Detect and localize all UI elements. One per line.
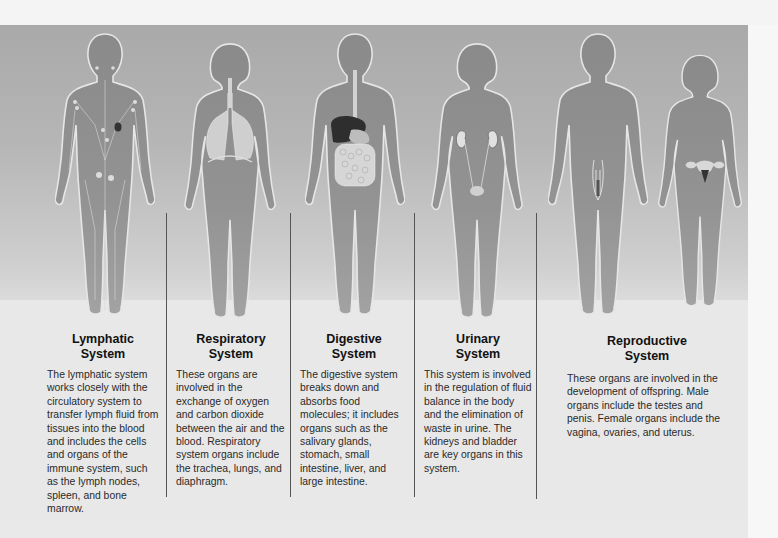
section-description: These organs are involved in the exchang…: [176, 368, 286, 489]
column-divider: [536, 213, 537, 499]
lymphatic-system-section: LymphaticSystem The lymphatic system wor…: [47, 332, 159, 515]
urinary-system-section: UrinarySystem This system is involved in…: [424, 332, 532, 475]
section-title: RespiratorySystem: [176, 332, 286, 362]
digestive-system-section: DigestiveSystem The digestive system bre…: [300, 332, 408, 489]
section-title: UrinarySystem: [424, 332, 532, 362]
section-title: LymphaticSystem: [47, 332, 159, 362]
reproductive-female-body-figure: [655, 38, 745, 323]
section-description: The lymphatic system works closely with …: [47, 368, 159, 515]
column-divider: [290, 213, 291, 497]
section-description: These organs are involved in the develop…: [567, 372, 727, 439]
respiratory-system-section: RespiratorySystem These organs are invol…: [176, 332, 286, 489]
section-title: DigestiveSystem: [300, 332, 408, 362]
reproductive-male-body-figure: [548, 30, 648, 320]
column-divider: [166, 213, 167, 497]
column-divider: [414, 213, 415, 497]
page-top-strip: [0, 0, 778, 25]
section-description: The digestive system breaks down and abs…: [300, 368, 408, 489]
section-title: ReproductiveSystem: [567, 334, 727, 364]
digestive-body-figure: [305, 30, 405, 320]
lymphatic-body-figure: [55, 30, 155, 320]
respiratory-body-figure: [180, 38, 280, 323]
urinary-body-figure: [427, 38, 527, 323]
section-description: This system is involved in the regulatio…: [424, 368, 532, 475]
reproductive-system-section: ReproductiveSystem These organs are invo…: [567, 334, 727, 439]
